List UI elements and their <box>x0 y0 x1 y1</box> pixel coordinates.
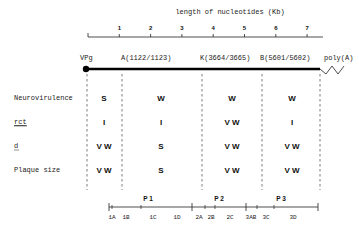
cell-value: V W <box>284 166 300 175</box>
region-label-p2: P 2 <box>214 195 224 202</box>
kb-tick-label: 3 <box>180 25 184 31</box>
cell-value: V W <box>284 142 300 151</box>
segment-label: 3D <box>289 214 297 221</box>
kb-tick-label: 1 <box>118 25 122 31</box>
marker-label-b: B(5601/5602) <box>260 54 310 62</box>
region-label-p1: P 1 <box>143 195 153 202</box>
cell-value: V W <box>224 142 240 151</box>
cell-value: V W <box>96 142 112 151</box>
cell-value: S <box>101 94 107 103</box>
row-label: rct <box>14 118 27 126</box>
genome-line: VPg poly(A) A(1122/1123) K(3664/3665) B(… <box>80 54 353 74</box>
axis-title: length of nucleotides (Kb) <box>175 8 284 16</box>
cell-value: W <box>157 94 165 103</box>
cell-value: I <box>291 118 293 127</box>
cell-value: S <box>158 142 164 151</box>
marker-label-k: K(3664/3665) <box>200 54 250 62</box>
poly-a-zigzag-icon <box>320 66 344 74</box>
vpg-label: VPg <box>80 54 93 62</box>
cell-value: S <box>158 166 164 175</box>
segment-label: 3AB <box>246 214 257 221</box>
protein-map: P 1 P 2 P 3 1A 1B 1C 1D 2A 2B 2C 3AB 3C … <box>108 195 318 221</box>
segment-label: 1A <box>108 214 116 221</box>
poly-a-label: poly(A) <box>324 54 353 62</box>
segment-label: 3C <box>262 214 270 221</box>
marker-label-a: A(1122/1123) <box>121 54 171 62</box>
row-label: Plaque size <box>14 166 60 174</box>
vpg-dot-icon <box>83 66 89 72</box>
cell-value: I <box>103 118 105 127</box>
segment-label: 1C <box>149 214 157 221</box>
segment-label: 2C <box>226 214 234 221</box>
row-label: d <box>14 142 18 150</box>
row-plaque-size: Plaque size V W S V W V W <box>14 166 300 175</box>
segment-label: 1D <box>173 214 181 221</box>
cell-value: V W <box>96 166 112 175</box>
cell-value: V W <box>224 118 240 127</box>
cell-value: I <box>160 118 162 127</box>
cell-value: W <box>228 94 236 103</box>
kb-tick-label: 5 <box>243 25 247 31</box>
genome-map-diagram: length of nucleotides (Kb) 1234567 VPg p… <box>0 0 359 227</box>
row-d: d V W S V W V W <box>14 142 300 151</box>
cell-value: W <box>288 94 296 103</box>
kb-axis: 1234567 <box>88 25 323 37</box>
segment-label: 2A <box>195 214 203 221</box>
segment-label: 2B <box>207 214 215 221</box>
region-label-p3: P 3 <box>276 195 286 202</box>
kb-tick-label: 4 <box>212 25 216 31</box>
segment-label: 1B <box>122 214 130 221</box>
kb-tick-label: 7 <box>305 25 309 31</box>
row-label: Neurovirulence <box>14 94 73 102</box>
row-neurovirulence: Neurovirulence S W W W <box>14 94 296 103</box>
kb-tick-label: 2 <box>149 25 153 31</box>
phenotype-table: Neurovirulence S W W W rct I I V W I d V… <box>14 94 300 175</box>
kb-tick-label: 6 <box>274 25 278 31</box>
cell-value: V W <box>224 166 240 175</box>
row-rct: rct I I V W I <box>14 118 293 127</box>
